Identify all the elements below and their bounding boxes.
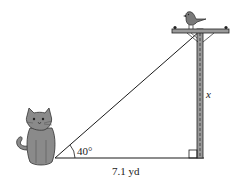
- bird-illustration: [183, 12, 206, 29]
- base-label: 7.1 yd: [112, 165, 140, 177]
- height-label: x: [205, 88, 211, 100]
- angle-arc: [70, 145, 75, 158]
- right-angle-marker: [189, 150, 197, 158]
- angle-label: 40°: [77, 145, 92, 157]
- cat-illustration: [17, 108, 55, 165]
- utility-pole: [172, 26, 229, 158]
- diagram-canvas: 40° 7.1 yd x: [0, 0, 243, 186]
- line-of-sight: [55, 31, 200, 158]
